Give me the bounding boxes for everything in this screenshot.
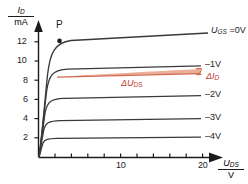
- x-axis-label-numerator: UDS: [218, 159, 244, 169]
- y-tick-label-12: 12: [17, 37, 27, 46]
- delta-uds-label: ΔUDS: [121, 79, 143, 89]
- curve-label-minus-4v: –4V: [205, 132, 221, 141]
- operating-point-label: P: [56, 20, 63, 30]
- y-axis-label: ID mA: [8, 6, 34, 27]
- x-axis-label-denominator: V: [218, 171, 244, 180]
- y-tick-label-4: 4: [23, 114, 28, 123]
- x-axis-label: UDS V: [218, 159, 244, 180]
- curve-label-minus-1v: –1V: [205, 60, 221, 69]
- x-tick-label-20: 20: [198, 161, 208, 170]
- curve-label-ugs-0v: UGS =0V: [211, 26, 246, 36]
- y-axis-label-denominator: mA: [8, 18, 34, 27]
- y-tick-label-8: 8: [23, 76, 28, 85]
- delta-region-band: [57, 69, 202, 78]
- curve-label-minus-3v: –3V: [205, 113, 221, 122]
- curve-ugs-minus-2v: [39, 96, 201, 157]
- y-axis-arrowhead: [34, 20, 43, 32]
- curve-group: [39, 33, 208, 157]
- y-axis-label-numerator: ID: [8, 6, 34, 16]
- y-tick-label-2: 2: [23, 133, 28, 142]
- x-tick-label-10: 10: [116, 161, 126, 170]
- output-characteristics-chart: ID mA UDS V 12 10 8 6 4 2 10 20 P UGS =0…: [0, 0, 248, 184]
- curve-label-minus-2v: –2V: [205, 90, 221, 99]
- y-tick-label-10: 10: [17, 56, 27, 65]
- y-tick-label-6: 6: [23, 95, 28, 104]
- delta-id-label: ΔID: [206, 72, 219, 82]
- curve-ugs-minus-1v: [39, 66, 201, 157]
- operating-point-marker: [57, 39, 62, 44]
- axes: [34, 20, 223, 163]
